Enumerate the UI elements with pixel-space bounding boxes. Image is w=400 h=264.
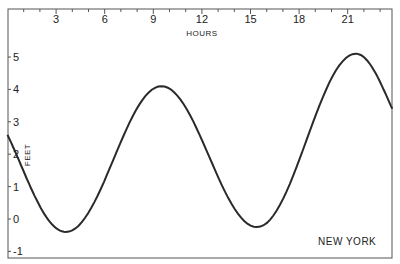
y-axis-label: FEET xyxy=(23,144,32,166)
y-tick-label: -1 xyxy=(13,246,23,257)
x-tick-label: 21 xyxy=(342,14,354,25)
x-tick-label: 18 xyxy=(293,14,305,25)
x-tick-label: 15 xyxy=(244,14,256,25)
y-tick-label: 1 xyxy=(13,181,19,192)
x-tick-label: 12 xyxy=(196,14,208,25)
x-tick-label: 9 xyxy=(150,14,156,25)
x-tick-label: 6 xyxy=(102,14,108,25)
y-tick-label: 3 xyxy=(13,116,19,127)
tide-curve xyxy=(8,54,393,232)
tide-chart xyxy=(0,0,400,264)
y-tick-label: 0 xyxy=(13,214,19,225)
y-tick-label: 4 xyxy=(13,84,19,95)
y-tick-label: 5 xyxy=(13,52,19,63)
y-tick-label: 2 xyxy=(13,149,19,160)
location-annotation: NEW YORK xyxy=(318,236,376,247)
x-axis-label: HOURS xyxy=(186,29,217,38)
x-tick-label: 3 xyxy=(53,14,59,25)
